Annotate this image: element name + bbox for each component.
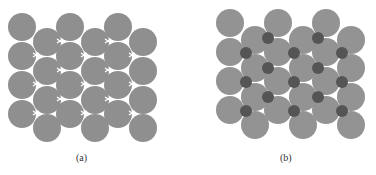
- large-sphere: [216, 38, 244, 66]
- panel-b: [0, 0, 376, 150]
- panel-b-caption: (b): [280, 152, 292, 163]
- small-sphere: [240, 47, 252, 59]
- large-sphere: [216, 96, 244, 124]
- small-sphere: [240, 76, 252, 88]
- small-sphere: [312, 91, 324, 103]
- small-sphere: [312, 32, 324, 44]
- small-sphere: [262, 32, 274, 44]
- sphere-packing-diagram-b: [0, 0, 376, 150]
- small-sphere: [240, 105, 252, 117]
- small-sphere: [312, 62, 324, 74]
- small-sphere: [288, 47, 300, 59]
- small-sphere: [262, 91, 274, 103]
- small-sphere: [288, 76, 300, 88]
- large-sphere: [216, 9, 244, 37]
- small-sphere: [336, 105, 348, 117]
- small-sphere: [262, 62, 274, 74]
- small-sphere: [336, 76, 348, 88]
- small-sphere: [336, 47, 348, 59]
- panel-a-caption: (a): [76, 152, 87, 163]
- large-sphere: [216, 67, 244, 95]
- small-sphere: [288, 105, 300, 117]
